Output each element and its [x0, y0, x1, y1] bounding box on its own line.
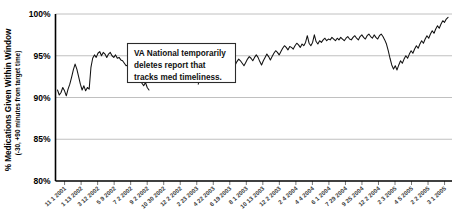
y-axis-subtitle: (-30, +90 minutes from target time) — [14, 51, 22, 156]
y-axis-title: % Medications Given Within Window — [4, 28, 13, 171]
annotation-line-1: VA National temporarily — [134, 49, 226, 58]
line-chart: 80%85%90%95%100% 11 1 20011 13 20023 12 … — [0, 0, 460, 221]
annotation-va-national: VA National temporarily deletes report t… — [128, 44, 236, 83]
y-axis-tick-label: 100% — [29, 9, 51, 19]
y-axis-tick-label: 85% — [33, 134, 50, 144]
y-axis-tick-label: 80% — [33, 176, 50, 186]
y-axis-tick-label: 95% — [33, 51, 50, 61]
chart-container: 80%85%90%95%100% 11 1 20011 13 20023 12 … — [0, 0, 460, 221]
x-axis-tick-label: 3 1 2005 — [426, 185, 448, 206]
y-axis-tick-labels: 80%85%90%95%100% — [29, 9, 51, 186]
gridlines — [56, 14, 453, 139]
x-axis-tick-labels: 11 1 20011 13 20023 12 20025 9 20027 2 2… — [44, 185, 448, 210]
data-series-line — [58, 17, 449, 95]
y-axis-tick-label: 90% — [33, 93, 50, 103]
annotation-line-3: tracks med timeliness. — [134, 73, 222, 82]
annotation-line-2: deletes report that — [134, 61, 206, 70]
